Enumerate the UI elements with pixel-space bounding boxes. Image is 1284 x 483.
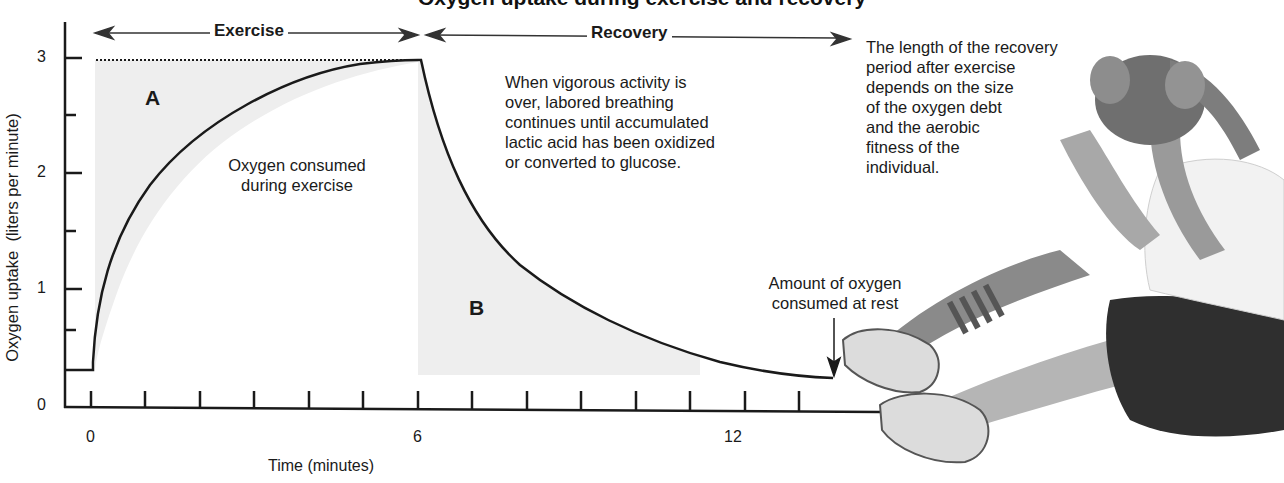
y-tick-label-2: 2 — [37, 163, 46, 181]
rest-level-arrow — [828, 318, 840, 376]
oxygen-consumed-note: Oxygen consumed during exercise — [212, 155, 382, 195]
x-tick-label-0: 0 — [86, 428, 95, 446]
recovery-explanation-note: When vigorous activity is over, labored … — [505, 72, 715, 172]
y-tick-label-0: 0 — [37, 396, 46, 414]
region-a-shading — [95, 60, 418, 370]
region-b-label: B — [469, 296, 484, 320]
exercise-phase-label: Exercise — [210, 21, 288, 41]
recovery-length-note: The length of the recovery period after … — [866, 37, 1058, 177]
y-axis-label: Oxygen uptake (liters per minute) — [3, 108, 22, 368]
region-a-label: A — [145, 86, 160, 110]
x-axis-label: Time (minutes) — [268, 457, 374, 475]
y-tick-label-1: 1 — [37, 279, 46, 297]
rest-level-note: Amount of oxygen consumed at rest — [740, 273, 930, 313]
y-tick-label-3: 3 — [37, 48, 46, 66]
x-tick-label-6: 6 — [413, 428, 422, 446]
y-ticks — [65, 58, 82, 330]
recovery-phase-label: Recovery — [587, 23, 672, 43]
x-tick-label-12: 12 — [724, 428, 742, 446]
